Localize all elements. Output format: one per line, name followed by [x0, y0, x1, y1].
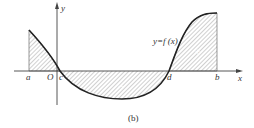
region-middle-negative	[60, 71, 169, 99]
point-a-label: a	[26, 72, 31, 82]
function-label: y=f (x)	[152, 36, 178, 46]
sign-middle-negative: −	[118, 81, 123, 91]
x-axis-label: x	[237, 73, 242, 83]
y-axis-arrow-icon	[55, 2, 59, 9]
area-under-curve-diagram: y x O a c d b y=f (x) + − + (b)	[0, 0, 254, 128]
point-d-label: d	[167, 72, 172, 82]
point-c-label: c	[59, 72, 63, 82]
point-b-label: b	[215, 72, 220, 82]
sign-left-positive: +	[37, 54, 42, 64]
sign-right-positive: +	[195, 47, 200, 57]
origin-label: O	[47, 72, 54, 82]
y-axis-label: y	[60, 3, 65, 13]
figure-caption: (b)	[128, 113, 139, 123]
